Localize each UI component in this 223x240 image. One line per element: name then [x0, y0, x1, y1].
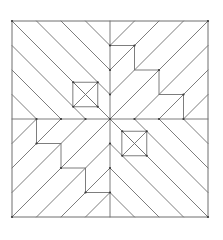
stripe-line [110, 70, 135, 95]
stripe-line [12, 119, 37, 144]
vertex-dot [182, 93, 184, 95]
stripe-line [37, 168, 86, 217]
vertex-dot [109, 44, 111, 46]
vertex-dot [72, 106, 74, 108]
stripe-line [159, 119, 208, 168]
vertex-dot [207, 216, 209, 218]
stripe-line [110, 193, 135, 218]
stripe-line [61, 21, 110, 70]
stripe-line [159, 21, 208, 70]
stripe-line [12, 70, 61, 119]
vertex-dot [133, 118, 135, 120]
stripe-line [12, 95, 37, 120]
vertex-dot [146, 155, 148, 157]
vertex-dot [158, 69, 160, 71]
stripe-line [184, 119, 209, 144]
vertex-dot [109, 167, 111, 169]
vertex-dot [97, 81, 99, 83]
vertex-dot [121, 130, 123, 132]
stripe-line [12, 144, 61, 193]
vertex-dot [35, 118, 37, 120]
vertex-dot [11, 216, 13, 218]
vertex-dot [158, 118, 160, 120]
vertex-dot [182, 118, 184, 120]
geometric-pattern [0, 0, 223, 240]
stripe-line [86, 21, 111, 46]
stripe-line [184, 70, 209, 95]
stripe-line [159, 46, 208, 95]
vertex-dot [84, 118, 86, 120]
stripe-line [110, 21, 135, 46]
stripe-line [110, 168, 159, 217]
vertex-dot [207, 20, 209, 22]
vertex-dot [84, 191, 86, 193]
stripe-line [61, 119, 110, 168]
stripe-line [135, 21, 184, 70]
stripe-line [61, 193, 86, 218]
vertex-dot [109, 69, 111, 71]
vertex-dot [133, 44, 135, 46]
stripe-line [135, 95, 160, 120]
stripe-line [61, 119, 86, 144]
vertex-dot [109, 142, 111, 144]
vertex-dot [121, 155, 123, 157]
vertex-dot [146, 130, 148, 132]
vertex-dot [72, 81, 74, 83]
stripe-line [37, 119, 62, 144]
stripe-line [86, 168, 111, 193]
vertex-dot [109, 191, 111, 193]
vertex-dot [60, 118, 62, 120]
pattern-canvas [0, 0, 223, 240]
stripe-line [12, 168, 61, 217]
vertex-dot [35, 142, 37, 144]
stripe-line [86, 144, 111, 169]
stripe-line [110, 46, 135, 71]
vertex-dot [109, 118, 111, 120]
vertex-dot [11, 20, 13, 22]
stripe-line [159, 95, 184, 120]
stripe-line [184, 95, 209, 120]
vertex-dot [109, 93, 111, 95]
vertex-dot [97, 106, 99, 108]
stripe-line [12, 144, 37, 169]
vertex-dot [60, 167, 62, 169]
stripe-line [110, 70, 159, 119]
stripe-line [135, 21, 160, 46]
stripe-line [86, 193, 111, 218]
